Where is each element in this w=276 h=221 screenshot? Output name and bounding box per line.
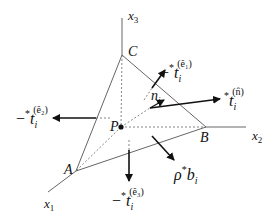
vertex-B-label: B [200,130,209,145]
label-normal: ni [151,88,161,105]
label-t-e3: −*ti(ê₃) [112,186,144,212]
hidden-to-normal [121,108,150,127]
label-body-force: ρ*bi [173,164,198,186]
tetrahedron-diagram: x3 x2 x1 C A B P −*ti(ê₁) −*ti(ê₂) −*ti(… [0,0,276,221]
arrow-body-force [152,136,174,160]
point-P [118,124,123,129]
label-t-n: *ti(n̂) [224,86,244,112]
x1-label: x1 [43,196,54,213]
label-t-e2: −*ti(ê₂) [16,104,48,130]
x3-label: x3 [127,8,139,25]
x2-label: x2 [251,128,262,145]
vertex-P-label: P [109,119,119,134]
edge-CA [76,55,122,171]
label-t-e1: −*ti(ê₁) [160,58,192,84]
vertex-C-label: C [128,44,138,59]
hidden-edge-CP [121,55,122,127]
vertex-A-label: A [63,162,73,177]
